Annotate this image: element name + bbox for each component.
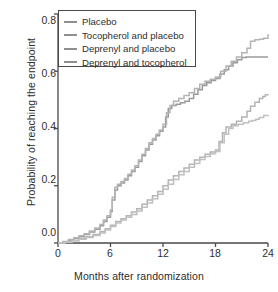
series-line-deprenyl-and-tocopherol [58,115,268,243]
x-tick-label-12: 12 [143,247,183,259]
series-line-placebo [58,57,268,243]
legend-label: Deprenyl and tocopherol [82,56,187,69]
legend-swatch-line-icon [64,61,77,63]
x-tick-label-6: 6 [90,247,130,259]
survival-curve-chart: 0.8 0.6 0.4 0.2 0.0 0 6 12 18 24 Probabi… [0,0,278,292]
legend-label: Tocopherol and placebo [82,29,184,42]
legend-item-tocopherol-and-placebo: Tocopherol and placebo [64,29,190,42]
x-tick-label-0: 0 [38,247,78,259]
legend-item-deprenyl-and-tocopherol: Deprenyl and tocopherol [64,56,190,69]
legend-item-deprenyl-and-placebo: Deprenyl and placebo [64,42,190,55]
legend-item-placebo: Placebo [64,15,190,28]
legend-swatch-line-icon [64,48,77,50]
x-tick-label-18: 18 [195,247,235,259]
legend-label: Placebo [82,15,117,28]
legend-label: Deprenyl and placebo [82,42,175,55]
x-axis-title: Months after randomization [0,270,278,282]
x-tick-label-24: 24 [248,247,278,259]
series-line-deprenyl-and-placebo [58,94,268,243]
legend: Placebo Tocopherol and placebo Deprenyl … [58,10,196,67]
y-tick-label-0.0: 0.0 [20,226,56,238]
legend-swatch-line-icon [64,21,77,23]
legend-swatch-line-icon [64,34,77,36]
y-axis-title: Probability of reaching the endpoint [25,17,37,227]
